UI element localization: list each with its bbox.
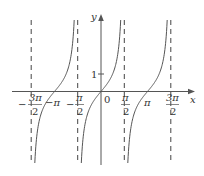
tick-neg-3pi2-minus: − xyxy=(18,99,26,110)
tick-pi-label: π xyxy=(143,97,151,108)
tick-neg-pi-label: −π xyxy=(45,97,60,108)
x-axis-label: x xyxy=(190,94,196,105)
tick-3pi2-den: 2 xyxy=(170,106,176,117)
tangent-graph: y x 0 1 − 3π 2 −π − π 2 π 2 π 3π 2 xyxy=(0,0,204,176)
tick-neg-3pi2-den: 2 xyxy=(32,106,38,117)
origin-label: 0 xyxy=(104,94,110,105)
tick-3pi2-num: 3π xyxy=(166,92,179,103)
tick-neg-3pi2-num: 3π xyxy=(29,92,42,103)
y-axis-arrow-icon xyxy=(98,14,104,21)
tick-pi2-num: π xyxy=(121,92,129,103)
tick-neg-pi2-minus: − xyxy=(66,99,74,110)
tick-neg-pi2-num: π xyxy=(75,92,83,103)
tick-pi2-den: 2 xyxy=(123,106,129,117)
y-tick-1-label: 1 xyxy=(91,69,97,80)
tick-neg-pi2-den: 2 xyxy=(77,106,83,117)
y-axis-label: y xyxy=(90,11,97,22)
